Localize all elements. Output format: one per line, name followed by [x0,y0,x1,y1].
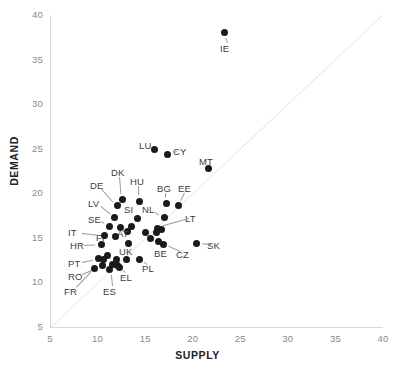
data-point-label: NL [142,204,155,215]
y-tick-label: 10 [17,276,43,287]
x-tick-label: 20 [180,333,206,344]
data-point-marker [161,214,168,221]
data-point-label: DK [111,167,125,178]
x-axis-line [50,327,383,328]
data-point-marker [134,215,141,222]
data-point-label: LV [88,198,99,209]
data-point-marker [221,29,228,36]
data-point-marker [99,262,106,269]
label-leader-line [203,243,212,245]
y-tick-label: 25 [17,143,43,154]
data-point-marker [111,214,118,221]
data-point-marker [163,200,170,207]
data-point-marker [193,240,200,247]
y-tick-label: 35 [17,54,43,65]
y-tick-label: 5 [17,321,43,332]
label-leader-line [84,244,95,245]
data-point-label: LU [139,140,152,151]
data-point-label: MT [199,156,213,167]
y-axis-line [50,15,51,328]
x-tick-label: 30 [275,333,301,344]
label-leader-line [165,193,166,197]
data-point-label: SK [207,240,220,251]
x-tick-label: 40 [370,333,395,344]
data-point-marker [154,225,161,232]
x-tick-label: 10 [85,333,111,344]
data-point-marker [106,266,113,273]
data-point-label: PL [142,263,154,274]
data-point-label: UK [119,246,133,257]
data-point-label: FR [64,286,77,297]
scatter-chart: 510152025303540 510152025303540 IELUCYMT… [0,0,395,379]
data-point-label: PT [68,258,81,269]
data-point-label: IT [68,227,77,238]
data-point-marker [91,265,98,272]
data-point-marker [101,232,108,239]
y-axis-title: DEMAND [8,121,20,201]
data-point-label: SE [88,214,101,225]
y-tick-label: 20 [17,187,43,198]
x-tick-label: 5 [37,333,63,344]
y-tick-label: 30 [17,98,43,109]
x-tick-label: 15 [132,333,158,344]
data-point-marker [136,256,143,263]
data-point-marker [95,255,102,262]
data-point-label: SI [124,204,133,215]
x-tick-label: 25 [227,333,253,344]
x-tick-label: 35 [322,333,348,344]
data-point-label: ES [103,286,116,297]
y-tick-label: 40 [17,9,43,20]
data-point-marker [98,241,105,248]
data-point-label: BE [154,248,167,259]
data-point-marker [160,241,167,248]
data-point-label: HR [70,240,84,251]
y-tick-label: 15 [17,232,43,243]
data-point-marker [116,264,123,271]
data-point-label: IE [220,43,229,54]
x-axis-title: SUPPLY [0,349,395,361]
data-point-label: EL [120,272,132,283]
identity-reference-line [50,15,383,328]
